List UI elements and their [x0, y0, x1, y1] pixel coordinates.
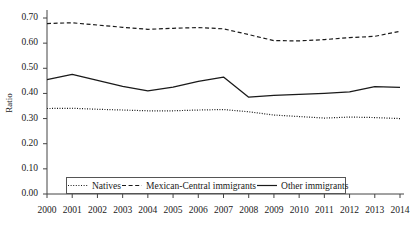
solid-line-icon [256, 182, 278, 189]
series-line [47, 108, 400, 118]
x-tick-label: 2003 [109, 205, 137, 215]
legend-label: Other immigrants [281, 181, 348, 191]
x-tick-label: 2002 [83, 205, 111, 215]
chart-axes [43, 10, 404, 198]
x-tick-label: 2014 [386, 205, 414, 215]
y-tick-label: 0.70 [8, 12, 38, 22]
legend-item-other-immigrants: Other immigrants [256, 181, 348, 191]
dotted-line-icon [67, 182, 89, 189]
y-tick-label: 0.40 [8, 87, 38, 97]
x-tick-label: 2012 [336, 205, 364, 215]
legend-label: Mexican-Central immigrants [146, 181, 256, 191]
y-tick-label: 0.10 [8, 163, 38, 173]
dashed-line-icon [121, 182, 143, 189]
x-tick-label: 2009 [260, 205, 288, 215]
chart-series [47, 23, 400, 119]
x-tick-label: 2011 [310, 205, 338, 215]
x-tick-label: 2000 [33, 205, 61, 215]
x-tick-label: 2013 [361, 205, 389, 215]
series-line [47, 23, 400, 41]
x-tick-label: 2005 [159, 205, 187, 215]
y-tick-label: 0.00 [8, 188, 38, 198]
y-tick-label: 0.20 [8, 138, 38, 148]
x-tick-label: 2010 [285, 205, 313, 215]
x-tick-label: 2001 [58, 205, 86, 215]
x-tick-label: 2007 [210, 205, 238, 215]
legend-item-natives: Natives [67, 181, 121, 191]
legend-label: Natives [92, 181, 121, 191]
series-line [47, 74, 400, 97]
x-tick-label: 2008 [235, 205, 263, 215]
chart-legend: Natives Mexican-Central immigrants Other… [66, 177, 346, 194]
y-tick-label: 0.50 [8, 62, 38, 72]
x-tick-label: 2004 [134, 205, 162, 215]
y-tick-label: 0.60 [8, 37, 38, 47]
x-tick-label: 2006 [184, 205, 212, 215]
y-tick-label: 0.30 [8, 113, 38, 123]
legend-item-mexican-central-immigrants: Mexican-Central immigrants [121, 181, 256, 191]
